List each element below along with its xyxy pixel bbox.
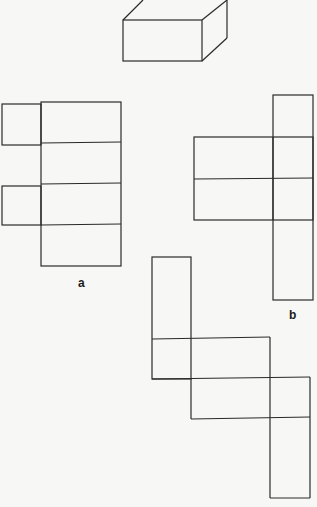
net-c — [152, 257, 310, 498]
net-a — [2, 102, 121, 266]
label-b: b — [289, 308, 296, 322]
nets-diagram — [0, 0, 317, 507]
net-b — [194, 95, 313, 300]
cuboid-drawing — [123, 0, 227, 61]
label-a: a — [78, 276, 85, 290]
